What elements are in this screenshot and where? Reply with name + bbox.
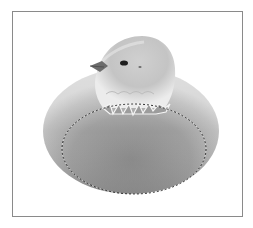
chick: [90, 36, 175, 108]
photo-canvas: [0, 0, 253, 228]
